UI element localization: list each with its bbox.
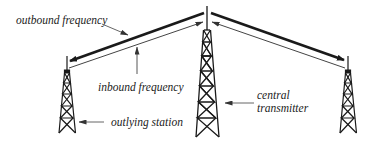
central-transmitter-tower-icon <box>196 6 219 137</box>
outlying-station-label: outlying station <box>111 116 183 129</box>
inbound-link-left <box>69 22 203 68</box>
outlying-station-left-tower-icon <box>59 56 76 133</box>
inbound-link-right <box>212 22 345 68</box>
central-transmitter-label-line1: central <box>257 89 290 102</box>
central-transmitter-label-line2: transmitter <box>257 102 308 115</box>
radio-network-diagram: outbound frequency inbound frequency out… <box>0 0 378 149</box>
inbound-frequency-label: inbound frequency <box>98 81 183 94</box>
outbound-link-right <box>211 13 344 60</box>
outbound-frequency-label: outbound frequency <box>16 14 107 27</box>
